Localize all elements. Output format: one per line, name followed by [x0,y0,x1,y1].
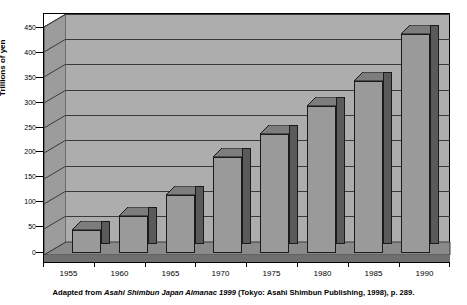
y-tick-label: 0 [14,249,36,256]
y-tick [36,151,43,152]
gridline [66,14,450,15]
bar-1965 [166,195,195,253]
x-tick-label-1980: 1980 [297,269,348,278]
bar-front-face [119,216,148,253]
gridline-skew [44,39,67,59]
gridline-skew [44,140,67,160]
bar-top-face [354,72,383,81]
chart-page: Trillions of yen 450 400 350 300 250 200… [0,0,467,305]
bar-side-face [383,72,392,244]
gridline [66,39,450,40]
bar-top-face [119,207,148,216]
x-tick [297,262,298,267]
bar-top-face [401,25,430,34]
gridline [66,166,450,167]
gridline [66,140,450,141]
y-tick [36,252,43,253]
bar-side-face [430,25,439,244]
gridline-skew [44,166,67,186]
bar-top-face [213,148,242,157]
x-tick [145,262,146,267]
bar-top-face [166,186,195,195]
gridline [66,115,450,116]
gridline-skew [44,14,67,34]
gridline-skew [44,191,67,211]
bar-side-face [336,97,345,244]
bar-1960 [119,216,148,253]
bar-1975 [260,134,289,253]
bar-front-face [72,230,101,253]
gridline [66,90,450,91]
source-caption: Adapted from Asahi Shimbun Japan Almanac… [0,288,467,298]
bar-1970 [213,157,242,253]
x-tick [94,262,95,267]
y-tick-label: 100 [14,198,36,205]
x-tick [246,262,247,267]
gridline-skew [44,90,67,110]
x-tick-label-1985: 1985 [348,269,399,278]
bar-side-face [148,207,157,244]
bar-1985 [354,81,383,253]
x-tick-label-1965: 1965 [145,269,196,278]
y-tick [36,27,43,28]
bar-side-face [101,221,110,244]
gridline [66,191,450,192]
y-tick-label: 300 [14,99,36,106]
bar-side-face [242,148,251,244]
bar-front-face [307,106,336,253]
bar-side-face [195,186,204,244]
x-tick-label-1960: 1960 [94,269,145,278]
y-axis-title: Trillions of yen [0,40,7,96]
bar-front-face [166,195,195,253]
bar-1990 [401,34,430,253]
y-tick-label: 250 [14,124,36,131]
bar-1955 [72,230,101,253]
y-tick-label: 150 [14,173,36,180]
bar-top-face [307,97,336,106]
chart-plot-area [43,13,450,262]
y-tick-label: 350 [14,74,36,81]
y-tick [36,102,43,103]
bar-front-face [260,134,289,253]
x-tick [449,262,450,267]
caption-suffix: (Tokyo: Asahi Shimbun Publishing, 1998),… [236,288,414,297]
y-tick-label: 400 [14,49,36,56]
x-tick [399,262,400,267]
caption-italic-title: Asahi Shimbun Japan Almanac 1999 [104,288,236,297]
y-tick [36,77,43,78]
y-tick [36,176,43,177]
x-tick [195,262,196,267]
y-tick-label: 200 [14,148,36,155]
y-tick [36,52,43,53]
y-tick [36,226,43,227]
y-tick [36,201,43,202]
y-tick [36,127,43,128]
x-tick [43,262,44,267]
gridline-skew [44,115,67,135]
x-tick [348,262,349,267]
gridline-skew [44,64,67,84]
x-tick-label-1975: 1975 [246,269,297,278]
bar-front-face [354,81,383,253]
bar-front-face [401,34,430,253]
bar-side-face [289,125,298,244]
y-tick-label: 450 [14,24,36,31]
x-tick-label-1955: 1955 [43,269,94,278]
bar-front-face [213,157,242,253]
x-tick-label-1970: 1970 [195,269,246,278]
caption-prefix: Adapted from [53,288,104,297]
bar-top-face [72,221,101,230]
x-tick-label-1990: 1990 [399,269,450,278]
gridline [66,64,450,65]
y-tick-label: 50 [14,223,36,230]
bar-top-face [260,125,289,134]
bar-1980 [307,106,336,253]
